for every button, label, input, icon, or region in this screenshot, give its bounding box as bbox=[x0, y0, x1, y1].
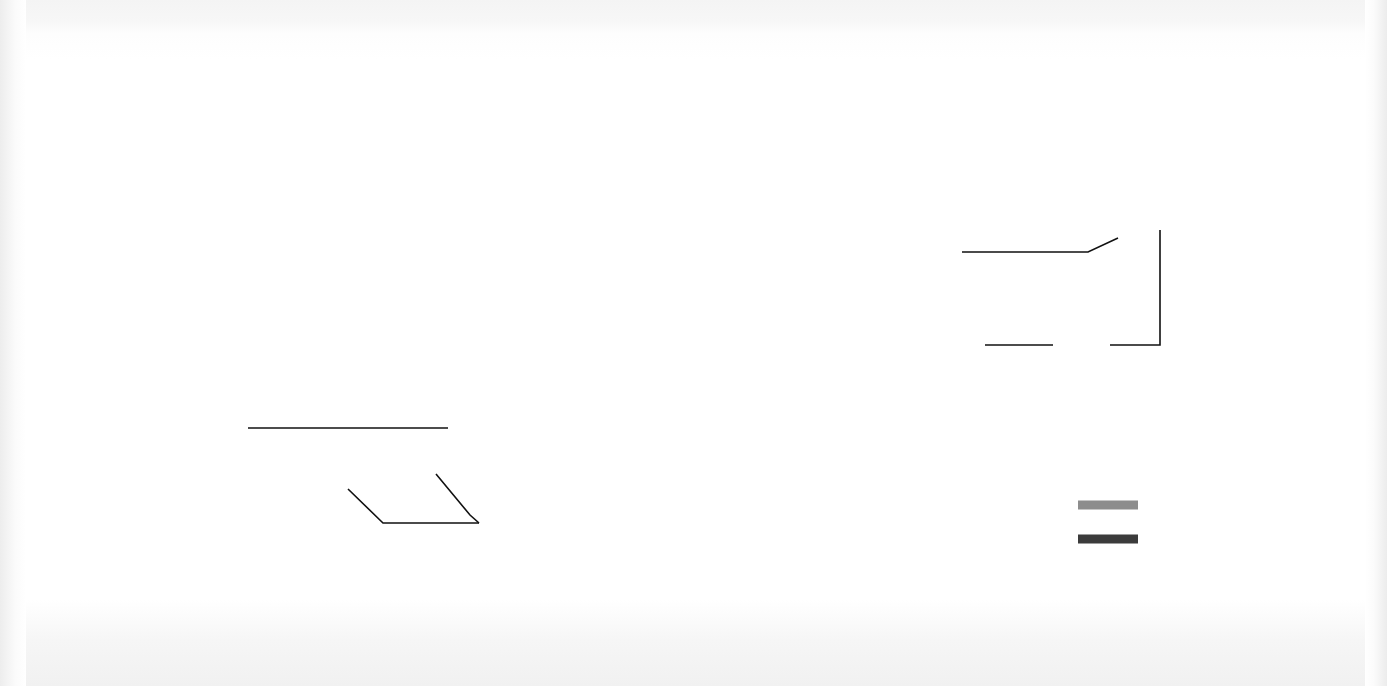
annotation-federal-surplus-1950s bbox=[348, 474, 479, 523]
annotation-federal-deficit-2000s bbox=[985, 230, 1160, 345]
chart-legend bbox=[1078, 505, 1138, 539]
figure-panel bbox=[0, 0, 1387, 686]
annotation-federal-surplus-2000 bbox=[962, 238, 1118, 252]
federal-budget-chart bbox=[0, 0, 1387, 686]
